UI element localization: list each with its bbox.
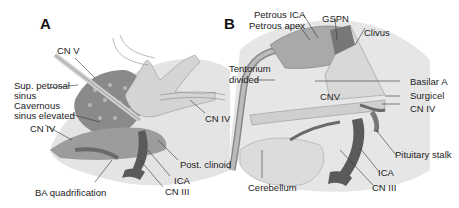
label-petrous-ica: Petrous ICA	[254, 10, 305, 20]
label-gspn: GSPN	[322, 14, 349, 24]
label-ica-a: ICA	[174, 176, 190, 186]
label-ica-b: ICA	[378, 168, 394, 178]
label-cavernous-sinus-line2: sinus elevated	[14, 111, 75, 121]
panel-label-b: B	[224, 15, 235, 32]
label-cn-iii-a: CN III	[165, 187, 189, 197]
label-cn-iv-b: CN IV	[410, 104, 435, 114]
label-basilar-a: Basilar A	[410, 77, 448, 87]
label-cn-v: CN V	[57, 46, 80, 56]
label-petrous-apex: Petrous apex	[249, 21, 305, 31]
panel-b-illustration	[230, 20, 430, 192]
label-cn-iii-b: CN III	[372, 183, 396, 193]
label-cn-iv-left: CN IV	[30, 124, 55, 134]
label-cerebellum: Cerebellum	[248, 183, 297, 193]
label-pituitary-stalk: Pituitary stalk	[395, 150, 452, 160]
label-surgicel: Surgicel	[410, 91, 444, 101]
label-cnv: CNV	[320, 92, 340, 102]
panel-label-a: A	[40, 15, 51, 32]
label-post-clinoid: Post. clinoid	[180, 160, 231, 170]
label-cn-iv-right: CN IV	[205, 114, 230, 124]
label-tentorium-line1: Tentorium	[229, 64, 271, 74]
label-clivus: Clivus	[364, 28, 390, 38]
anatomical-figure: A B CN V Sup. petrosal sinus Cavernous s…	[0, 0, 459, 208]
label-tentorium-line2: divided	[229, 75, 259, 85]
label-ba-quadrification: BA quadrification	[35, 188, 106, 198]
